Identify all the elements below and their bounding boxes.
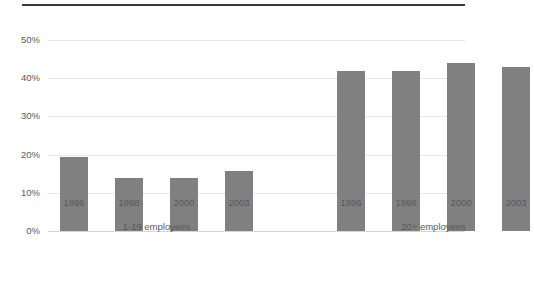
x-axis-tick-label: 1998 [376,198,436,208]
y-axis-tick-label: 20% [21,150,40,160]
y-axis-tick-label: 0% [26,226,40,236]
bar [60,157,88,231]
y-axis-tick-label: 30% [21,112,40,122]
group-label: 20+ employees [354,222,514,232]
x-axis-tick-label: 1996 [321,198,381,208]
x-axis-tick-label: 1996 [44,198,104,208]
x-axis-tick-label: 2000 [154,198,214,208]
gridline-50pct: 50% [48,40,465,41]
y-axis-tick-label: 50% [21,35,40,45]
x-axis-tick-label: 2003 [209,198,269,208]
x-axis-tick-label: 2003 [486,198,534,208]
top-divider-rule [22,4,465,6]
x-axis-tick-label: 2000 [431,198,491,208]
y-axis-tick-label: 40% [21,73,40,83]
x-axis-tick-label: 1998 [99,198,159,208]
y-axis-tick-label: 10% [21,188,40,198]
group-label: 1-19 employees [77,222,237,232]
